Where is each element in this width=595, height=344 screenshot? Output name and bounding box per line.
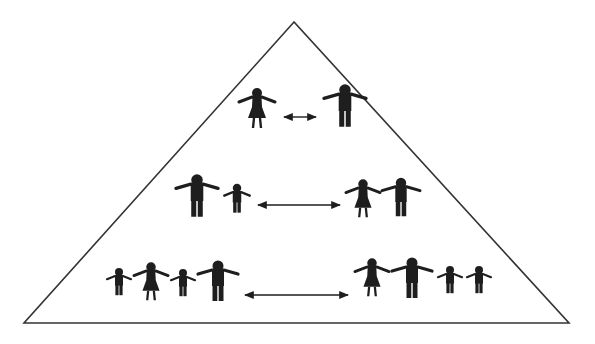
right-group: [324, 84, 366, 127]
right-group: [355, 258, 491, 299]
diagram-canvas: [0, 0, 595, 344]
male-figure-icon: [382, 178, 420, 216]
female-figure-icon: [346, 179, 380, 217]
child-figure-icon: [438, 266, 462, 293]
right-group: [346, 178, 420, 217]
female-figure-icon: [355, 258, 389, 296]
male-figure-icon: [392, 258, 432, 299]
male-figure-icon: [198, 261, 238, 302]
left-group: [107, 261, 238, 302]
child-figure-icon: [224, 184, 250, 213]
female-figure-icon: [134, 262, 168, 300]
pyramid-triangle: [24, 22, 569, 323]
tier-1: [239, 84, 366, 128]
tier-2: [176, 174, 420, 217]
female-figure-icon: [239, 88, 275, 128]
male-figure-icon: [324, 84, 366, 127]
child-figure-icon: [467, 266, 491, 293]
child-figure-icon: [171, 269, 195, 296]
pyramid-diagram: [0, 0, 595, 344]
child-figure-icon: [107, 268, 131, 295]
left-group: [239, 88, 275, 128]
tier-3: [107, 258, 491, 302]
male-figure-icon: [176, 174, 218, 217]
left-group: [176, 174, 250, 217]
